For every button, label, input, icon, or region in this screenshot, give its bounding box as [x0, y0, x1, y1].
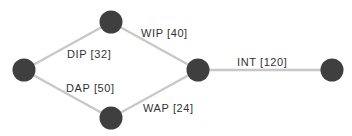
- edge-dip: [24, 22, 111, 70]
- edge-dap: [24, 70, 111, 118]
- network-diagram: DIP [32] DAP [50] WIP [40] WAP [24] INT …: [0, 0, 352, 136]
- node-center-right: [187, 59, 210, 82]
- edge-label-dip: DIP [32]: [67, 48, 111, 60]
- edge-label-wap: WAP [24]: [143, 102, 194, 114]
- edge-label-wip: WIP [40]: [141, 27, 188, 39]
- node-left: [13, 59, 36, 82]
- node-far-right: [321, 59, 344, 82]
- edge-label-int: INT [120]: [237, 56, 287, 68]
- edge-label-dap: DAP [50]: [66, 82, 115, 94]
- node-bottom: [100, 107, 123, 130]
- node-top: [100, 11, 123, 34]
